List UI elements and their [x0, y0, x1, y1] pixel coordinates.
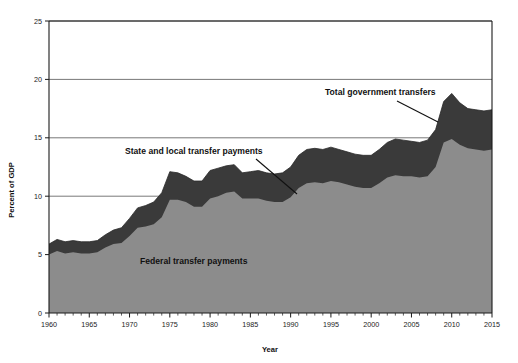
x-tick-label-2005: 2005	[403, 320, 419, 329]
annotation-label-total-government-transfers: Total government transfers	[325, 87, 436, 97]
annotation-label-state-and-local-transfer-payments: State and local transfer payments	[125, 146, 263, 156]
x-tick-label-2000: 2000	[363, 320, 379, 329]
x-tick-label-1995: 1995	[323, 320, 339, 329]
y-tick-label-10: 10	[34, 192, 42, 201]
y-tick-label-15: 15	[34, 133, 42, 142]
x-tick-label-1965: 1965	[81, 320, 97, 329]
y-tick-label-25: 25	[34, 17, 42, 26]
x-tick-label-2015: 2015	[484, 320, 500, 329]
x-tick-label-1975: 1975	[162, 320, 178, 329]
stacked-area-chart: 0510152025 19601965197019751980198519901…	[0, 0, 518, 363]
x-tick-label-1960: 1960	[41, 320, 57, 329]
annotation-federal-transfer-payments: Federal transfer payments	[140, 256, 248, 266]
x-tick-label-1980: 1980	[202, 320, 218, 329]
chart-container: 0510152025 19601965197019751980198519901…	[0, 0, 518, 363]
y-tick-label-20: 20	[34, 75, 42, 84]
y-tick-label-0: 0	[38, 309, 42, 318]
x-tick-label-1990: 1990	[283, 320, 299, 329]
x-tick-label-1985: 1985	[242, 320, 258, 329]
x-tick-label-2010: 2010	[444, 320, 460, 329]
y-axis-title: Percent of GDP	[7, 162, 16, 218]
y-tick-label-5: 5	[38, 250, 42, 259]
x-tick-label-1970: 1970	[122, 320, 138, 329]
x-axis-title: Year	[262, 345, 278, 354]
annotation-label-federal-transfer-payments: Federal transfer payments	[140, 256, 248, 266]
